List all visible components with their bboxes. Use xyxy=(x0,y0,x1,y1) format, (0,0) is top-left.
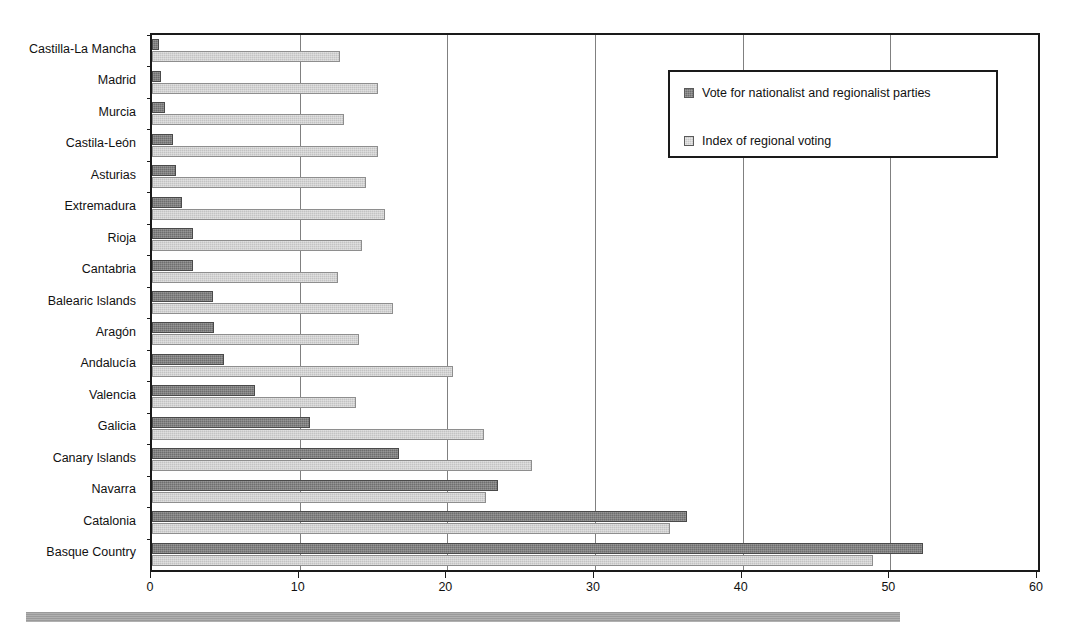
bar-nationalist-vote xyxy=(152,102,165,113)
bar-regional-voting-index xyxy=(152,429,484,440)
x-axis-tick xyxy=(888,572,889,578)
y-axis-label: Balearic Islands xyxy=(0,294,144,308)
x-axis-tick xyxy=(445,572,446,578)
bar-row xyxy=(152,161,1038,192)
y-axis-label: Castila-León xyxy=(0,136,144,150)
y-axis-tick xyxy=(147,129,152,130)
bar-nationalist-vote xyxy=(152,165,176,176)
y-axis-label: Andalucía xyxy=(0,356,144,370)
y-axis-tick xyxy=(147,444,152,445)
bar-regional-voting-index xyxy=(152,177,366,188)
bar-regional-voting-index xyxy=(152,460,532,471)
x-axis-tick-label: 60 xyxy=(1029,580,1043,594)
dark-swatch-icon xyxy=(684,88,694,98)
y-axis-labels: Castilla-La ManchaMadridMurciaCastila-Le… xyxy=(0,33,144,572)
bar-nationalist-vote xyxy=(152,385,255,396)
x-axis-tick-label: 30 xyxy=(586,580,600,594)
bar-nationalist-vote xyxy=(152,197,182,208)
x-axis-tick xyxy=(593,572,594,578)
bar-regional-voting-index xyxy=(152,146,378,157)
bar-nationalist-vote xyxy=(152,322,214,333)
legend-item: Vote for nationalist and regionalist par… xyxy=(684,86,996,100)
bar-nationalist-vote xyxy=(152,134,173,145)
y-axis-label: Galicia xyxy=(0,419,144,433)
bar-row xyxy=(152,413,1038,444)
y-axis-label: Murcia xyxy=(0,105,144,119)
bar-row xyxy=(152,381,1038,412)
bar-regional-voting-index xyxy=(152,240,362,251)
bar-row xyxy=(152,287,1038,318)
y-axis-tick xyxy=(147,476,152,477)
bar-row xyxy=(152,476,1038,507)
y-axis-tick xyxy=(147,539,152,540)
x-axis-tick-label: 10 xyxy=(291,580,305,594)
bar-row xyxy=(152,507,1038,538)
y-axis-tick xyxy=(147,287,152,288)
y-axis-label: Madrid xyxy=(0,73,144,87)
bar-nationalist-vote xyxy=(152,39,159,50)
y-axis-tick xyxy=(147,98,152,99)
bottom-band xyxy=(26,612,900,622)
y-axis-tick xyxy=(147,381,152,382)
chart-legend: Vote for nationalist and regionalist par… xyxy=(668,70,998,158)
y-axis-tick xyxy=(147,66,152,67)
x-axis-tick xyxy=(150,572,151,578)
x-axis-tick-label: 0 xyxy=(147,580,154,594)
x-axis-tick-label: 40 xyxy=(734,580,748,594)
bar-row xyxy=(152,539,1038,570)
bar-nationalist-vote xyxy=(152,354,224,365)
bar-nationalist-vote xyxy=(152,448,399,459)
bar-nationalist-vote xyxy=(152,71,161,82)
y-axis-label: Basque Country xyxy=(0,545,144,559)
y-axis-tick xyxy=(147,318,152,319)
x-axis-tick xyxy=(298,572,299,578)
bar-row xyxy=(152,255,1038,286)
bar-nationalist-vote xyxy=(152,260,193,271)
bar-nationalist-vote xyxy=(152,291,213,302)
legend-item-label: Index of regional voting xyxy=(702,134,831,148)
y-axis-tick xyxy=(147,161,152,162)
bar-regional-voting-index xyxy=(152,523,670,534)
bar-row xyxy=(152,350,1038,381)
x-axis-tick xyxy=(741,572,742,578)
y-axis-label: Cantabria xyxy=(0,262,144,276)
light-swatch-icon xyxy=(684,136,694,146)
y-axis-tick xyxy=(147,192,152,193)
bar-row xyxy=(152,224,1038,255)
bar-nationalist-vote xyxy=(152,480,498,491)
y-axis-label: Valencia xyxy=(0,388,144,402)
bar-regional-voting-index xyxy=(152,303,393,314)
bar-row xyxy=(152,318,1038,349)
bar-nationalist-vote xyxy=(152,228,193,239)
y-axis-label: Rioja xyxy=(0,231,144,245)
bar-regional-voting-index xyxy=(152,366,453,377)
bar-nationalist-vote xyxy=(152,417,310,428)
x-axis-tick xyxy=(1036,572,1037,578)
bar-row xyxy=(152,35,1038,66)
bar-regional-voting-index xyxy=(152,114,344,125)
bar-regional-voting-index xyxy=(152,51,340,62)
y-axis-label: Castilla-La Mancha xyxy=(0,42,144,56)
bar-regional-voting-index xyxy=(152,272,338,283)
figure: Castilla-La ManchaMadridMurciaCastila-Le… xyxy=(0,0,1071,629)
bar-row xyxy=(152,192,1038,223)
bar-regional-voting-index xyxy=(152,83,378,94)
x-axis-tick-label: 50 xyxy=(881,580,895,594)
legend-item-label: Vote for nationalist and regionalist par… xyxy=(702,86,931,100)
x-axis: 0102030405060 xyxy=(150,572,1040,602)
y-axis-tick xyxy=(147,507,152,508)
bar-regional-voting-index xyxy=(152,334,359,345)
y-axis-tick xyxy=(147,224,152,225)
y-axis-tick xyxy=(147,413,152,414)
bar-nationalist-vote xyxy=(152,511,687,522)
y-axis-tick xyxy=(147,350,152,351)
bar-regional-voting-index xyxy=(152,209,385,220)
bar-row xyxy=(152,444,1038,475)
y-axis-label: Canary Islands xyxy=(0,451,144,465)
bar-regional-voting-index xyxy=(152,492,486,503)
y-axis-label: Navarra xyxy=(0,482,144,496)
y-axis-tick xyxy=(147,255,152,256)
bar-regional-voting-index xyxy=(152,397,356,408)
y-axis-label: Catalonia xyxy=(0,514,144,528)
y-axis-tick xyxy=(147,35,152,36)
